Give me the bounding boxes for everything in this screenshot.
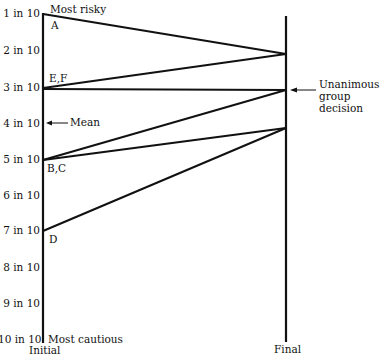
point-label-D: D (49, 233, 57, 245)
group-arrowhead-icon (290, 88, 297, 93)
tick-6: 6 in 10 (0, 189, 40, 201)
tick-4: 4 in 10 (0, 117, 40, 129)
line-F (43, 89, 286, 90)
point-label-BC: B,C (47, 162, 66, 174)
point-label-EF: E,F (49, 72, 67, 84)
tick-2: 2 in 10 (0, 44, 40, 56)
tick-7: 7 in 10 (0, 224, 40, 236)
most-risky-label: Most risky (50, 3, 106, 15)
risky-shift-diagram: 1 in 10 2 in 10 3 in 10 4 in 10 5 in 10 … (0, 0, 383, 358)
point-label-A: A (51, 19, 59, 31)
x-label-final: Final (274, 343, 301, 355)
x-label-initial: Initial (29, 344, 60, 356)
tick-9: 9 in 10 (0, 297, 40, 309)
line-E (43, 54, 286, 88)
mean-arrowhead-icon (46, 121, 52, 126)
tick-8: 8 in 10 (0, 261, 40, 273)
mean-label: Mean (70, 116, 100, 128)
diagram-lines (0, 0, 383, 358)
group-decision-label: Unanimous group decision (319, 78, 383, 114)
tick-5: 5 in 10 (0, 153, 40, 165)
tick-3: 3 in 10 (0, 81, 40, 93)
tick-1: 1 in 10 (0, 7, 40, 19)
line-A (43, 14, 286, 54)
